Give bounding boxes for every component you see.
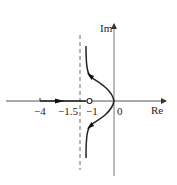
direction-arrow-icon — [55, 99, 64, 104]
imag-axis-label: Im — [100, 22, 113, 34]
zero-marker-icon — [87, 99, 92, 104]
tick-label-0: 0 — [117, 105, 123, 117]
tick-label-neg4: −4 — [34, 105, 46, 117]
root-locus-diagram: −4 −1.5 −1 0 Re Im — [0, 0, 177, 185]
real-axis-label: Re — [151, 104, 163, 116]
tick-label-neg1-5: −1.5 — [58, 105, 78, 117]
tick-label-neg1: −1 — [86, 105, 98, 117]
upper-branch — [86, 46, 114, 101]
